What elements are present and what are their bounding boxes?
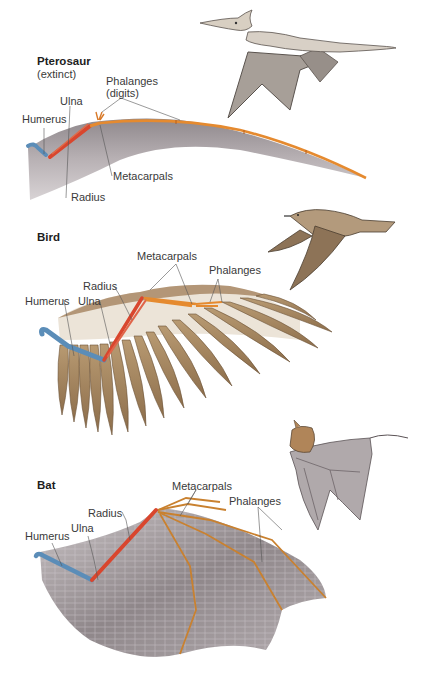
bird-flying-illustration xyxy=(268,210,395,290)
pterosaur-wing-anatomy xyxy=(28,98,366,200)
pterosaur-label-phalanges: Phalanges xyxy=(106,75,158,87)
bird-label-metacarpals: Metacarpals xyxy=(137,250,197,262)
pterosaur-subtitle: (extinct) xyxy=(37,68,76,80)
wing-homology-figure: Pterosaur (extinct) Ulna Humerus Phalang… xyxy=(0,0,424,687)
bat-label-radius: Radius xyxy=(88,507,122,519)
bat-label-ulna: Ulna xyxy=(71,522,94,534)
bird-label-humerus: Humerus xyxy=(25,295,70,307)
pterosaur-label-metacarpals: Metacarpals xyxy=(113,170,173,182)
bird-label-phalanges: Phalanges xyxy=(209,264,261,276)
bat-title: Bat xyxy=(37,479,56,492)
pterosaur-label-humerus: Humerus xyxy=(22,113,67,125)
pterosaur-label-phalanges-note: (digits) xyxy=(106,87,139,99)
pterosaur-label-ulna: Ulna xyxy=(60,95,83,107)
bat-label-metacarpals: Metacarpals xyxy=(172,480,232,492)
bird-label-radius: Radius xyxy=(83,280,117,292)
pterosaur-label-radius: Radius xyxy=(71,191,105,203)
pterosaur-flying-illustration xyxy=(200,10,396,118)
bat-label-humerus: Humerus xyxy=(25,530,70,542)
bat-wing-anatomy xyxy=(36,490,326,657)
bat-flying-illustration xyxy=(290,420,408,530)
bird-title: Bird xyxy=(37,231,60,244)
bat-label-phalanges: Phalanges xyxy=(229,495,281,507)
pterosaur-title: Pterosaur xyxy=(37,55,91,68)
bird-label-ulna: Ulna xyxy=(78,295,101,307)
